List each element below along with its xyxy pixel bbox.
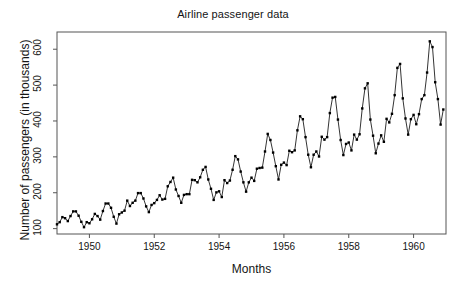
data-series-line: [57, 41, 443, 227]
chart-figure: Airline passenger data Number of passeng…: [0, 0, 466, 285]
y-tick-label: 100: [32, 212, 43, 242]
x-tick-label: 1956: [264, 241, 304, 252]
axis-ticks: [53, 49, 414, 238]
data-series-points: [56, 40, 445, 228]
x-tick-label: 1952: [134, 241, 174, 252]
y-tick-label: 200: [32, 176, 43, 206]
x-tick-label: 1950: [69, 241, 109, 252]
y-tick-label: 500: [32, 69, 43, 99]
x-tick-label: 1954: [199, 241, 239, 252]
y-tick-label: 300: [32, 140, 43, 170]
x-tick-label: 1958: [329, 241, 369, 252]
y-tick-label: 600: [32, 33, 43, 63]
x-tick-label: 1960: [394, 241, 434, 252]
y-tick-label: 400: [32, 104, 43, 134]
plot-frame: [57, 32, 446, 234]
